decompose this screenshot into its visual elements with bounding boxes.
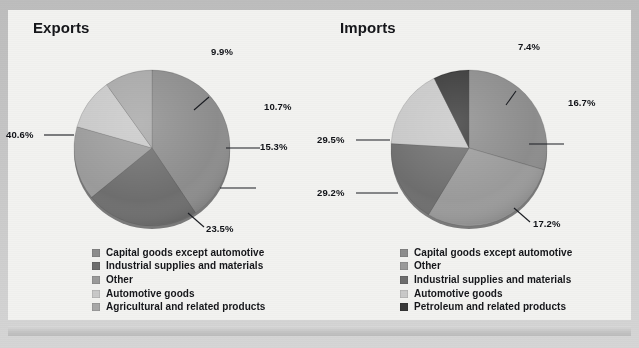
imports-legend-label: Petroleum and related products bbox=[414, 301, 566, 313]
legend-swatch-icon bbox=[400, 276, 408, 284]
imports-legend-label: Capital goods except automotive bbox=[414, 247, 572, 259]
exports-title: Exports bbox=[33, 19, 90, 36]
imports-legend-item: Capital goods except automotive bbox=[320, 246, 632, 260]
imports-legend-label: Automotive goods bbox=[414, 288, 503, 300]
exports-pie-svg bbox=[8, 40, 320, 240]
imports-legend-item: Industrial supplies and materials bbox=[320, 273, 632, 287]
imports-pct-right: 16.7% bbox=[568, 97, 595, 108]
imports-legend-label: Industrial supplies and materials bbox=[414, 274, 571, 286]
exports-legend-label: Industrial supplies and materials bbox=[106, 260, 263, 272]
legend-swatch-icon bbox=[400, 262, 408, 270]
exports-legend-item: Capital goods except automotive bbox=[8, 246, 320, 260]
imports-leader-lower-right bbox=[514, 208, 530, 222]
imports-pct-lower-left: 29.2% bbox=[317, 187, 344, 198]
imports-pct-left: 29.5% bbox=[317, 134, 344, 145]
exports-legend-item: Agricultural and related products bbox=[8, 300, 320, 314]
exports-pct-left: 40.6% bbox=[6, 129, 33, 140]
imports-pct-top: 7.4% bbox=[518, 41, 540, 52]
imports-legend-item: Automotive goods bbox=[320, 287, 632, 301]
legend-swatch-icon bbox=[92, 303, 100, 311]
exports-legend-item: Automotive goods bbox=[8, 287, 320, 301]
exports-pct-upper-right: 10.7% bbox=[264, 101, 291, 112]
exports-pie-shading bbox=[74, 71, 230, 225]
figure-frame: Exports bbox=[0, 0, 639, 348]
exports-pct-top: 9.9% bbox=[211, 46, 233, 57]
imports-pie-svg bbox=[320, 40, 632, 240]
exports-pct-lower-right: 23.5% bbox=[206, 223, 233, 234]
legend-swatch-icon bbox=[92, 276, 100, 284]
exports-legend-label: Other bbox=[106, 274, 133, 286]
imports-legend-item: Other bbox=[320, 260, 632, 274]
legend-swatch-icon bbox=[92, 249, 100, 257]
exports-pie bbox=[8, 40, 320, 240]
imports-pie bbox=[320, 40, 632, 240]
exports-legend-item: Industrial supplies and materials bbox=[8, 260, 320, 274]
exports-legend-label: Agricultural and related products bbox=[106, 301, 265, 313]
imports-legend-label: Other bbox=[414, 260, 441, 272]
imports-pct-lower-right: 17.2% bbox=[533, 218, 560, 229]
imports-legend-item: Petroleum and related products bbox=[320, 300, 632, 314]
imports-pie-shading bbox=[391, 71, 547, 225]
legend-swatch-icon bbox=[400, 290, 408, 298]
legend-swatch-icon bbox=[92, 290, 100, 298]
imports-title: Imports bbox=[340, 19, 396, 36]
imports-legend: Capital goods except automotiveOtherIndu… bbox=[320, 246, 632, 314]
exports-pct-right: 15.3% bbox=[260, 141, 287, 152]
exports-legend-item: Other bbox=[8, 273, 320, 287]
exports-legend-label: Automotive goods bbox=[106, 288, 195, 300]
legend-swatch-icon bbox=[92, 262, 100, 270]
exports-legend: Capital goods except automotiveIndustria… bbox=[8, 246, 320, 314]
exports-panel: Exports bbox=[8, 0, 320, 310]
imports-panel: Imports 7.4% 1 bbox=[320, 0, 632, 310]
legend-swatch-icon bbox=[400, 303, 408, 311]
figure-bottom-band bbox=[8, 326, 631, 336]
exports-legend-label: Capital goods except automotive bbox=[106, 247, 264, 259]
legend-swatch-icon bbox=[400, 249, 408, 257]
